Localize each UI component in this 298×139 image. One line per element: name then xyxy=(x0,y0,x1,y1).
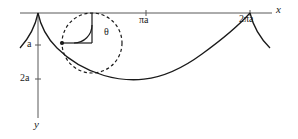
x-tick-label-pia: πa xyxy=(139,15,149,25)
cycloid-figure: a 2a πa 2πa θ x y xyxy=(0,0,298,139)
x-axis-label: x xyxy=(276,4,281,15)
y-tick-label-a: a xyxy=(27,39,31,49)
generating-point-marker xyxy=(60,41,64,45)
x-tick-label-2pia: 2πa xyxy=(239,14,254,24)
y-axis-label: y xyxy=(34,119,39,130)
theta-angle-label: θ xyxy=(104,27,109,37)
theta-arc xyxy=(74,25,92,43)
y-tick-label-2a: 2a xyxy=(20,73,29,83)
